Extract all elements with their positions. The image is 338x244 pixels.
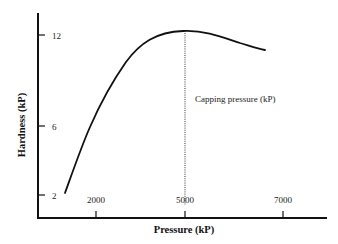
y-tick-label-6: 6 (52, 122, 57, 132)
x-ticks: 2000 5000 7000 (87, 195, 293, 218)
capping-pressure-label: Capping pressure (kP) (195, 94, 276, 104)
y-tick-label-2: 2 (52, 191, 57, 201)
x-tick-label-2000: 2000 (87, 195, 106, 205)
y-ticks: 12 6 2 (38, 31, 61, 201)
x-tick-label-7000: 7000 (274, 195, 293, 205)
y-tick-label-12: 12 (52, 31, 61, 41)
hardness-pressure-chart: 12 6 2 2000 5000 7000 Capping pressure (… (0, 0, 338, 244)
x-axis-title: Pressure (kP) (154, 224, 215, 236)
hardness-curve (65, 31, 265, 193)
y-axis-title: Hardness (kP) (16, 92, 28, 157)
